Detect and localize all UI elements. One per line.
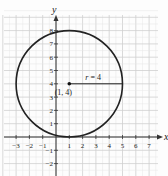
- circle-graph: xy−3−2−11234567−2−112345678r = 4(1, 4): [0, 0, 168, 176]
- x-tick-label: 2: [81, 142, 85, 150]
- x-axis-arrow-icon: [157, 135, 163, 140]
- y-tick-label: 7: [50, 40, 54, 48]
- x-axis-label: x: [163, 131, 168, 142]
- y-tick-label: 3: [50, 94, 54, 102]
- x-tick-label: 4: [107, 142, 111, 150]
- y-tick-label: 1: [50, 120, 54, 128]
- y-tick-label: −1: [46, 147, 54, 155]
- y-tick-label: 5: [50, 67, 54, 75]
- y-tick-label: 4: [50, 80, 54, 88]
- x-tick-label: 3: [94, 142, 98, 150]
- x-tick-label: −3: [12, 142, 20, 150]
- y-tick-label: 2: [50, 107, 54, 115]
- x-tick-label: 7: [147, 142, 151, 150]
- radius-label: r = 4: [85, 73, 101, 82]
- x-tick-label: 6: [134, 142, 138, 150]
- x-tick-label: 1: [68, 142, 72, 150]
- y-tick-label: 6: [50, 54, 54, 62]
- x-tick-label: −2: [26, 142, 34, 150]
- x-tick-label: 5: [121, 142, 125, 150]
- y-axis-label: y: [51, 4, 57, 15]
- plot-area: xy−3−2−11234567−2−112345678r = 4(1, 4): [0, 0, 168, 176]
- y-axis-arrow-icon: [54, 15, 59, 21]
- center-point: [68, 82, 72, 86]
- y-tick-label: −2: [46, 160, 54, 168]
- center-label: (1, 4): [55, 88, 73, 97]
